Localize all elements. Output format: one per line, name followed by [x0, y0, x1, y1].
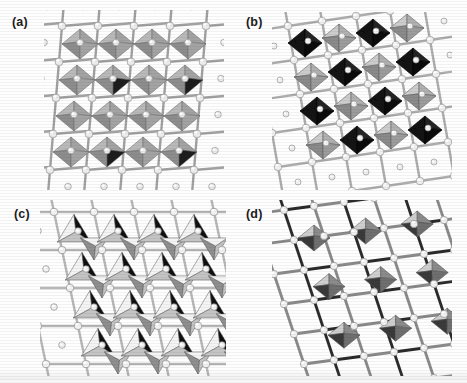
panel-c-structure	[40, 200, 226, 376]
panel-b-structure	[272, 12, 452, 190]
panel-d-structure	[272, 200, 452, 376]
panel-a-label: (a)	[12, 16, 28, 29]
panel-c-label: (c)	[14, 208, 30, 221]
panel-a-structure	[44, 10, 224, 190]
panel-b-label: (b)	[246, 16, 263, 29]
panel-d-label: (d)	[246, 208, 263, 221]
figure-root: (a) (b) (c) (d)	[0, 0, 467, 383]
